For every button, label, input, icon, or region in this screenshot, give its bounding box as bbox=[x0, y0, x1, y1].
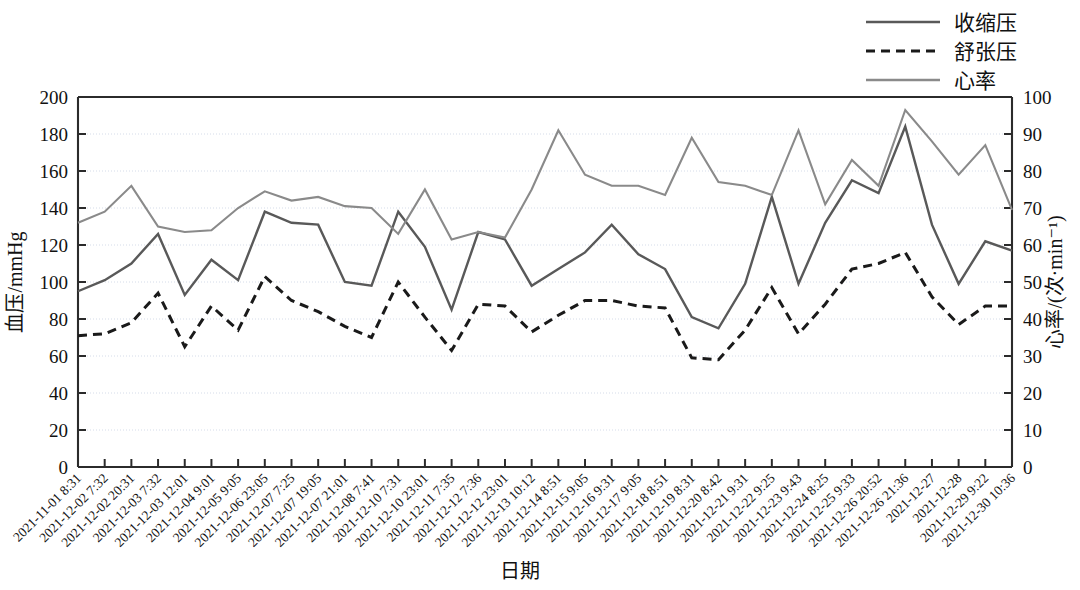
y-tick-label: 60 bbox=[49, 346, 68, 367]
y-tick-label: 180 bbox=[40, 124, 69, 145]
legend-label-2: 心率 bbox=[954, 69, 996, 93]
series-group bbox=[78, 110, 1012, 360]
y2-tick-label: 70 bbox=[1023, 198, 1042, 219]
y-tick-label: 0 bbox=[59, 457, 69, 478]
y2-tick-label: 10 bbox=[1023, 420, 1042, 441]
y-tick-label: 140 bbox=[40, 198, 69, 219]
series-line-2 bbox=[78, 110, 1012, 240]
y-tick-label: 80 bbox=[49, 309, 68, 330]
y-tick-labels: 020406080100120140160180200 bbox=[40, 87, 69, 478]
y2-tick-label: 30 bbox=[1023, 346, 1042, 367]
y2-tick-label: 60 bbox=[1023, 235, 1042, 256]
axes-group bbox=[78, 97, 1012, 467]
y-tick-label: 40 bbox=[49, 383, 68, 404]
y-tick-label: 120 bbox=[40, 235, 69, 256]
legend: 收缩压舒张压心率 bbox=[866, 11, 1017, 93]
y-tick-label: 100 bbox=[40, 272, 69, 293]
legend-label-1: 舒张压 bbox=[954, 40, 1017, 64]
y2-tick-label: 40 bbox=[1023, 309, 1042, 330]
y2-tick-label: 100 bbox=[1023, 87, 1052, 108]
blood-pressure-heart-rate-chart: 020406080100120140160180200 010203040506… bbox=[0, 0, 1080, 590]
y-axis-title: 血压/mmHg bbox=[4, 231, 27, 332]
legend-label-0: 收缩压 bbox=[954, 11, 1017, 35]
y2-tick-label: 0 bbox=[1023, 457, 1033, 478]
series-line-0 bbox=[78, 127, 1012, 329]
y2-tick-label: 90 bbox=[1023, 124, 1042, 145]
series-line-1 bbox=[78, 252, 1012, 359]
x-tick-labels: 2021-11-01 8:312021-12-02 7:322021-12-02… bbox=[10, 470, 1018, 549]
y-tick-label: 160 bbox=[40, 161, 69, 182]
y2-tick-label: 20 bbox=[1023, 383, 1042, 404]
y2-tick-label: 80 bbox=[1023, 161, 1042, 182]
y2-tick-label: 50 bbox=[1023, 272, 1042, 293]
y2-axis-title: 心率/(次·min⁻¹) bbox=[1044, 215, 1067, 348]
chart-canvas: 020406080100120140160180200 010203040506… bbox=[0, 0, 1080, 590]
y-tick-label: 20 bbox=[49, 420, 68, 441]
y-tick-label: 200 bbox=[40, 87, 69, 108]
x-axis-title: 日期 bbox=[500, 560, 540, 582]
